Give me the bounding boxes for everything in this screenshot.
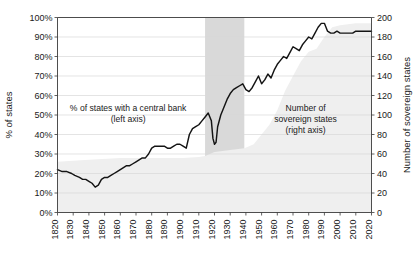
y-tick-label-50: 50% [34,110,52,120]
y-axis-right-ticks: 020406080100120140160180200 [372,13,393,218]
y2-tick-label-140: 140 [377,71,392,81]
y2-tick-label-160: 160 [377,52,392,62]
x-tick-label-1900: 1900 [175,220,185,240]
right-series-annotation-line-1: Number of [285,103,326,113]
y2-tick-label-60: 60 [377,149,387,159]
y-tick-label-90: 90% [34,32,52,42]
x-tick-label-1870: 1870 [128,220,138,240]
x-tick-label-1940: 1940 [238,220,248,240]
x-tick-label-1830: 1830 [65,220,75,240]
y-axis-left-ticks: 0%10%20%30%40%50%60%70%80%90%100% [29,13,57,218]
y-tick-label-40: 40% [34,130,52,140]
y2-tick-label-20: 20 [377,188,387,198]
x-tick-label-2000: 2000 [332,220,342,240]
x-tick-label-1970: 1970 [285,220,295,240]
y-tick-label-80: 80% [34,52,52,62]
y2-tick-label-80: 80 [377,130,387,140]
y-tick-label-60: 60% [34,91,52,101]
x-tick-label-1980: 1980 [301,220,311,240]
y-tick-label-0: 0% [39,208,52,218]
y-tick-label-30: 30% [34,149,52,159]
y-tick-label-10: 10% [34,188,52,198]
x-tick-label-1930: 1930 [222,220,232,240]
x-axis-ticks: 1820183018401850186018701880189019001910… [50,213,374,240]
x-tick-label-1820: 1820 [50,220,60,240]
y2-tick-label-200: 200 [377,13,392,23]
x-tick-label-1880: 1880 [144,220,154,240]
y2-tick-label-120: 120 [377,91,392,101]
x-tick-label-1950: 1950 [254,220,264,240]
left-series-annotation-line-2: (left axis) [111,114,146,124]
x-tick-label-1990: 1990 [316,220,326,240]
x-tick-label-1920: 1920 [207,220,217,240]
y2-axis-title: Number of sovereign states [401,57,412,173]
central-bank-share-chart: 0%10%20%30%40%50%60%70%80%90%100% 020406… [0,0,420,268]
y-tick-label-20: 20% [34,169,52,179]
x-tick-label-2020: 2020 [364,220,374,240]
left-series-annotation-line-1: % of states with a central bank [70,103,187,113]
y-tick-label-100: 100% [29,13,52,23]
y-axis-title: % of states [3,91,14,138]
right-series-annotation-line-3: (right axis) [285,125,325,135]
x-tick-label-1860: 1860 [112,220,122,240]
x-tick-label-1890: 1890 [159,220,169,240]
x-tick-label-1840: 1840 [81,220,91,240]
chart-figure: 0%10%20%30%40%50%60%70%80%90%100% 020406… [0,0,420,268]
x-tick-label-1850: 1850 [97,220,107,240]
x-tick-label-1960: 1960 [269,220,279,240]
y2-tick-label-0: 0 [377,208,382,218]
x-tick-label-1910: 1910 [191,220,201,240]
y-tick-label-70: 70% [34,71,52,81]
x-tick-label-2010: 2010 [348,220,358,240]
y2-tick-label-180: 180 [377,32,392,42]
y2-tick-label-40: 40 [377,169,387,179]
right-series-annotation-line-2: sovereign states [274,114,337,124]
y2-tick-label-100: 100 [377,110,392,120]
